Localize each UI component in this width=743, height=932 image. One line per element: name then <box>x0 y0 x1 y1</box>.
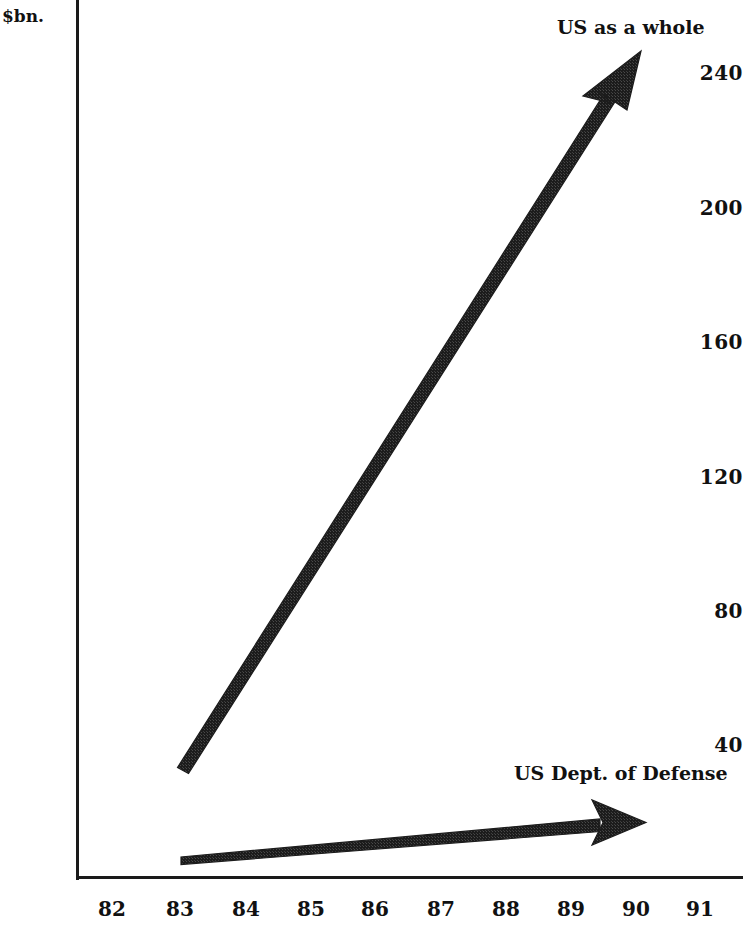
plot-area <box>0 0 743 932</box>
series-label-us-dept-of-defense: US Dept. of Defense <box>514 762 728 784</box>
series-arrow-us-whole <box>178 51 642 774</box>
series-arrow-us-dod <box>181 800 646 865</box>
chart-figure: $bn. 2402001601208040 828384858687888990… <box>0 0 743 932</box>
series-label-us-as-a-whole: US as a whole <box>557 16 705 38</box>
